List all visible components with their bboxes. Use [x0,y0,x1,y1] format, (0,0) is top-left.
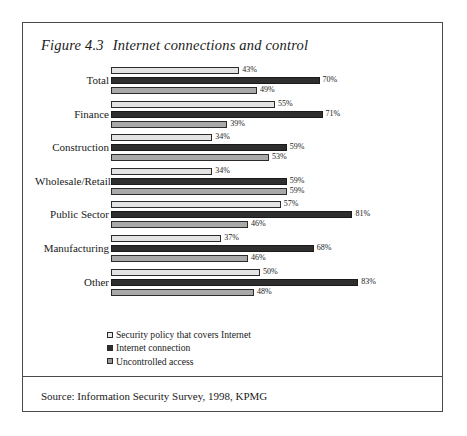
bar-value-label: 49% [260,84,275,96]
source-divider [23,376,442,377]
bar-group: Wholesale/Retail34%59%59% [35,166,435,200]
chart-legend: Security policy that covers InternetInte… [107,328,251,368]
bar-group: Construction34%59%53% [35,132,435,166]
bar-group: Total43%70%49% [35,65,435,99]
legend-swatch-icon [107,358,113,364]
category-label: Other [35,275,109,289]
category-label: Manufacturing [35,241,109,255]
bar [111,221,248,228]
bar-value-label: 53% [272,151,287,163]
figure-number: Figure 4.3 [41,37,104,53]
bar-value-label: 55% [278,98,293,110]
legend-item[interactable]: Security policy that covers Internet [107,328,251,341]
bar-value-label: 71% [326,108,341,120]
figure-box: Figure 4.3Internet connections and contr… [22,22,443,412]
figure-title-text: Internet connections and control [113,37,309,53]
category-label: Public Sector [35,207,109,221]
bar-value-label: 81% [355,208,370,220]
bar [111,211,352,218]
category-label: Total [35,73,109,87]
bar-value-label: 43% [242,64,257,76]
bar-row: 53% [111,154,409,161]
bar-value-label: 39% [230,118,245,130]
bar [111,111,323,118]
legend-item[interactable]: Uncontrolled access [107,355,251,368]
bar-row: 81% [111,211,409,218]
bar-row: 43% [111,67,409,74]
bar-value-label: 59% [290,185,305,197]
source-note: Source: Information Security Survey, 199… [41,390,267,402]
bar-row: 46% [111,255,409,262]
bar [111,188,287,195]
bar [111,168,212,175]
bar-group: Manufacturing37%68%46% [35,233,435,267]
bar [111,87,257,94]
bar [111,178,287,185]
bar-row: 55% [111,101,409,108]
bar-row: 48% [111,289,409,296]
bar [111,255,248,262]
bar-row: 39% [111,121,409,128]
bar-group: Other50%83%48% [35,267,435,301]
bar-value-label: 48% [257,286,272,298]
category-label: Construction [35,140,109,154]
bar-row: 49% [111,87,409,94]
bar [111,101,275,108]
category-label: Wholesale/Retail [35,174,109,188]
bar-value-label: 46% [251,252,266,264]
bar-row: 50% [111,269,409,276]
bar [111,279,358,286]
bar-value-label: 37% [224,232,239,244]
bar-value-label: 83% [361,276,376,288]
bar-value-label: 70% [323,74,338,86]
bar-value-label: 68% [317,242,332,254]
bar-group: Finance55%71%39% [35,99,435,133]
bar [111,134,212,141]
bar-value-label: 59% [290,141,305,153]
bar-row: 34% [111,134,409,141]
legend-swatch-icon [107,332,113,338]
legend-label: Internet connection [116,341,190,354]
bar-row: 59% [111,178,409,185]
bar-row: 59% [111,144,409,151]
bar-value-label: 34% [215,131,230,143]
figure-title: Figure 4.3Internet connections and contr… [41,37,308,54]
bar-value-label: 50% [263,266,278,278]
bar [111,269,260,276]
bar [111,67,239,74]
bar-row: 70% [111,77,409,84]
bar-row: 37% [111,235,409,242]
bar-group: Public Sector57%81%46% [35,199,435,233]
bar-value-label: 34% [215,165,230,177]
legend-item[interactable]: Internet connection [107,341,251,354]
bar-row: 83% [111,279,409,286]
bar-row: 68% [111,245,409,252]
bar-value-label: 57% [284,198,299,210]
bar [111,121,227,128]
legend-label: Security policy that covers Internet [116,328,251,341]
bar [111,77,320,84]
bar-row: 57% [111,201,409,208]
bar [111,245,314,252]
legend-swatch-icon [107,345,113,351]
bar-row: 46% [111,221,409,228]
bar-row: 59% [111,188,409,195]
bar [111,235,221,242]
bar [111,144,287,151]
legend-label: Uncontrolled access [116,355,194,368]
bar-row: 71% [111,111,409,118]
bar [111,154,269,161]
bar-row: 34% [111,168,409,175]
bar [111,289,254,296]
category-label: Finance [35,107,109,121]
bar [111,201,281,208]
bar-value-label: 46% [251,218,266,230]
bar-chart-plot-area: Total43%70%49%Finance55%71%39%Constructi… [35,65,435,321]
